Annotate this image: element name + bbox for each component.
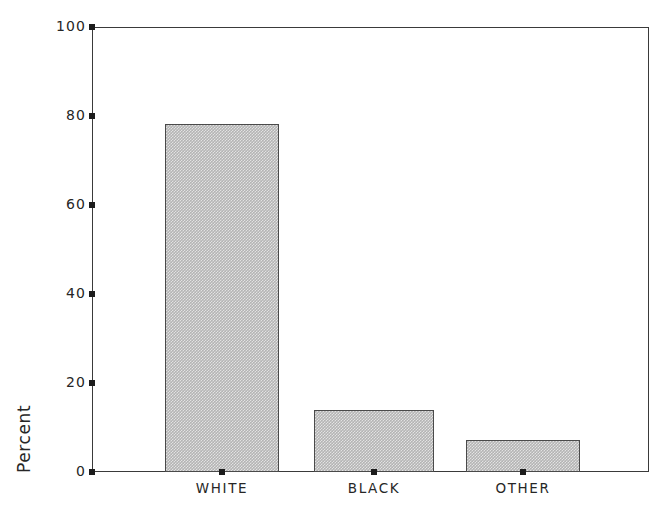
y-tick-label-60: 60: [66, 196, 86, 212]
y-tick-label-40: 40: [66, 285, 86, 301]
x-tick-mark-white: [219, 469, 225, 475]
y-tick-label-80: 80: [66, 107, 86, 123]
y-tick-mark-40: [89, 291, 95, 297]
x-tick-label-other: OTHER: [496, 480, 551, 496]
x-tick-label-white: WHITE: [196, 480, 248, 496]
y-tick-label-0: 0: [76, 463, 86, 479]
bar-black: [314, 410, 434, 472]
y-tick-mark-80: [89, 113, 95, 119]
bar-white: [165, 124, 279, 472]
bar-other: [466, 440, 580, 472]
y-tick-label-100: 100: [56, 18, 86, 34]
bar-chart: Percent 100 80 60 40 20 0 WHITE BLACK OT…: [0, 0, 670, 531]
x-tick-mark-black: [371, 469, 377, 475]
x-tick-label-black: BLACK: [348, 480, 400, 496]
y-tick-label-20: 20: [66, 374, 86, 390]
y-tick-mark-20: [89, 380, 95, 386]
y-tick-mark-0: [89, 469, 95, 475]
y-tick-mark-60: [89, 202, 95, 208]
x-tick-mark-other: [520, 469, 526, 475]
y-tick-mark-100: [89, 24, 95, 30]
y-axis-title: Percent: [14, 405, 34, 473]
